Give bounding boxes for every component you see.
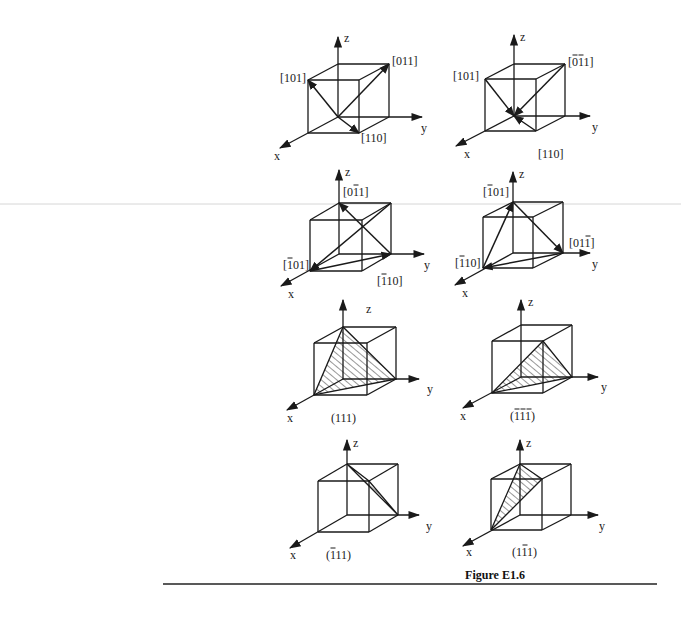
unit-cube-panel-6: xyz(111) xyxy=(460,295,607,423)
direction-label: [101] xyxy=(280,71,306,85)
cube-edge xyxy=(359,64,389,80)
direction-label: [110] xyxy=(538,147,564,161)
y-axis-label: y xyxy=(426,519,432,533)
hatched-miller-plane xyxy=(492,341,572,393)
y-axis-label: y xyxy=(592,120,598,134)
cube-edge xyxy=(308,64,338,80)
plane-label: (111) xyxy=(326,548,351,562)
z-axis-label: z xyxy=(353,436,358,450)
cube-edge xyxy=(310,203,339,220)
cube-edge xyxy=(485,64,514,79)
x-axis-label: x xyxy=(464,147,470,161)
y-axis-label: y xyxy=(592,257,598,271)
x-axis-label: x xyxy=(460,409,466,423)
crystal-panels: xyz[101][011][110]xyz[101][011][110]xyz[… xyxy=(274,30,607,562)
z-axis-label: z xyxy=(528,295,533,309)
y-axis-label: y xyxy=(599,519,605,533)
direction-vector-arrow xyxy=(483,202,513,268)
x-axis-label: x xyxy=(290,548,296,562)
direction-label: [101] xyxy=(453,69,479,83)
cube-edge xyxy=(369,515,398,532)
cube-edge xyxy=(369,464,398,481)
direction-label: [110] xyxy=(377,274,403,288)
direction-label: [101] xyxy=(283,258,309,272)
direction-label: [110] xyxy=(361,131,387,145)
hatched-miller-plane xyxy=(347,464,398,515)
direction-label: [011] xyxy=(392,54,418,68)
x-axis-label: x xyxy=(287,411,293,425)
plane-label: (111) xyxy=(512,545,537,559)
direction-vector-arrow xyxy=(514,64,565,116)
direction-label: [011] xyxy=(343,185,369,199)
direction-vector-arrow xyxy=(338,117,359,133)
z-axis-label: z xyxy=(345,165,350,179)
x-axis-label: x xyxy=(466,545,472,559)
direction-vector-arrow xyxy=(514,116,536,131)
direction-vector-arrow xyxy=(339,203,391,254)
y-axis-label: y xyxy=(601,380,607,394)
direction-vector-arrow xyxy=(513,202,563,253)
unit-cube-panel-8: xyz(111) xyxy=(463,436,605,559)
y-axis-label: y xyxy=(421,121,427,135)
figure-caption: Figure E1.6 xyxy=(465,568,525,582)
direction-vector-arrow xyxy=(483,253,563,268)
direction-label: [011] xyxy=(569,236,595,250)
unit-cube-panel-3: xyz[101][011][110] xyxy=(281,165,430,301)
z-axis-label: z xyxy=(519,167,524,181)
unit-cube-panel-2: xyz[101][011][110] xyxy=(453,30,598,161)
plane-label: (111) xyxy=(331,411,356,425)
hatched-miller-plane xyxy=(314,327,396,395)
x-axis-label: x xyxy=(462,286,468,300)
hatched-miller-plane xyxy=(491,464,542,530)
z-axis-label: z xyxy=(344,31,349,45)
direction-vector-arrow xyxy=(338,64,389,117)
unit-cube-panel-1: xyz[101][011][110] xyxy=(274,31,427,163)
y-axis-label: y xyxy=(427,382,433,396)
plane-label: (111) xyxy=(510,409,535,423)
direction-vector-arrow xyxy=(310,254,391,271)
cube-edge xyxy=(543,325,572,341)
x-axis-label: x xyxy=(274,149,280,163)
figure-canvas: xyz[101][011][110]xyz[101][011][110]xyz[… xyxy=(0,0,681,621)
x-axis-label: x xyxy=(288,287,294,301)
unit-cube-panel-5: xyz(111) xyxy=(287,300,433,425)
direction-label: [101] xyxy=(483,185,509,199)
cube-edge xyxy=(542,464,571,479)
cube-edge xyxy=(536,64,565,79)
cube-edge xyxy=(492,325,521,341)
direction-vector-arrow xyxy=(485,79,514,116)
cube-edge xyxy=(542,515,571,530)
direction-label: [110] xyxy=(455,256,481,270)
cube-edge xyxy=(362,203,391,220)
cube-edge xyxy=(367,327,396,343)
y-axis-label: y xyxy=(424,258,430,272)
direction-vector-arrow xyxy=(308,80,338,117)
z-axis-label: z xyxy=(526,436,531,450)
direction-label: [011] xyxy=(568,55,594,69)
z-axis-label: z xyxy=(366,302,371,316)
z-axis-label: z xyxy=(520,30,525,44)
cube-edge xyxy=(318,464,347,481)
unit-cube-panel-4: xyz[101][011][110] xyxy=(455,167,598,300)
unit-cube-panel-7: xyz(111) xyxy=(290,436,432,562)
cube-edge xyxy=(536,116,565,131)
